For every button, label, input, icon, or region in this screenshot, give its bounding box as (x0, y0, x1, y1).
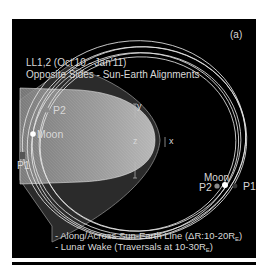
axis-label-y: y (137, 101, 142, 112)
axis-label-z: z (133, 136, 138, 147)
p2-marker-right (214, 183, 219, 188)
p2-label-right: P2 (199, 182, 212, 193)
p1-marker-right (233, 184, 238, 189)
p2-marker-left (44, 107, 49, 112)
title-line2: Opposite Sides - Sun-Earth Alignments (26, 69, 199, 80)
note-line2: - Lunar Wake (Traversals at 10-30RE) (55, 241, 213, 256)
moon-label-left: Moon (37, 129, 63, 140)
p2-label-left: P2 (53, 105, 66, 116)
panel-label: (a) (230, 29, 242, 40)
p1-label-left: P1 (17, 160, 30, 171)
title-line1: LL1,2 (Oct'10 - Jan'11) (26, 57, 126, 68)
diagram-panel: (a) LL1,2 (Oct'10 - Jan'11) Opposite Sid… (12, 19, 256, 258)
axis-label-x: x (169, 136, 174, 147)
p1-label-right: P1 (243, 181, 256, 192)
moon-marker-left (30, 131, 36, 137)
p1-marker-left (20, 152, 25, 159)
